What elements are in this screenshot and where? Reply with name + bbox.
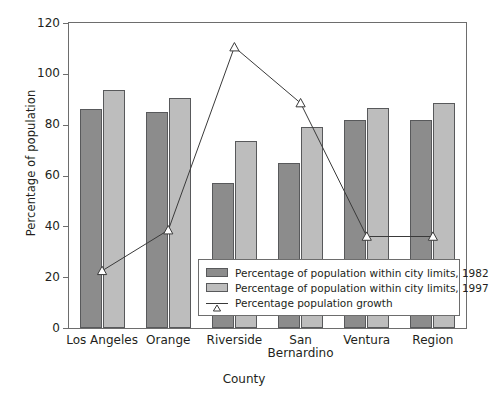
- growth-marker: [97, 266, 106, 274]
- y-tick-label: 60: [8, 169, 60, 181]
- x-tick-label: Region: [378, 334, 488, 347]
- legend-label-1997: Percentage of population within city lim…: [235, 282, 489, 294]
- y-tick-label: 40: [8, 220, 60, 232]
- legend-item-1997: Percentage of population within city lim…: [206, 280, 453, 295]
- cropped-caption: [8, 389, 308, 398]
- y-axis-title: Percentage of population: [24, 48, 38, 278]
- legend-item-1982: Percentage of population within city lim…: [206, 265, 453, 280]
- legend-swatch-dark-icon: [206, 268, 228, 277]
- legend-label-1982: Percentage of population within city lim…: [235, 267, 489, 279]
- y-tick-label: 100: [8, 67, 60, 79]
- x-tick-label-line: Region: [378, 334, 488, 347]
- x-tick-label-line: Bernardino: [246, 347, 356, 360]
- y-tick-label: 20: [8, 271, 60, 283]
- chart-legend: Percentage of population within city lim…: [198, 259, 460, 316]
- legend-line-triangle-icon: [206, 298, 228, 308]
- legend-item-growth: Percentage population growth: [206, 295, 453, 310]
- x-axis-title: County: [0, 372, 488, 386]
- growth-marker: [230, 43, 239, 51]
- legend-swatch-light-icon: [206, 283, 228, 292]
- growth-line: [102, 47, 433, 271]
- legend-label-growth: Percentage population growth: [235, 297, 393, 309]
- y-tick-label: 0: [8, 322, 60, 334]
- growth-marker: [164, 226, 173, 234]
- y-tick-label: 80: [8, 118, 60, 130]
- y-tick-label: 120: [8, 17, 60, 29]
